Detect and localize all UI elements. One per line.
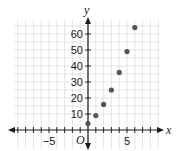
y-axis-label: y [83, 3, 90, 17]
y-tick-label: 50 [71, 44, 83, 56]
y-tick-label: 10 [71, 108, 83, 120]
y-tick-label: 30 [71, 76, 83, 88]
x-tick-label: −5 [43, 135, 56, 147]
scatter-chart: −55102030405060 x y O [0, 0, 179, 151]
ticks [18, 34, 151, 133]
y-tick-label: 40 [71, 60, 83, 72]
y-axis-down-arrow [85, 143, 91, 150]
data-point [117, 70, 122, 75]
axes [8, 17, 164, 150]
data-point [93, 113, 98, 118]
x-axis-label: x [165, 123, 172, 137]
data-point [85, 121, 90, 126]
data-point [101, 102, 106, 107]
y-tick-label: 20 [71, 92, 83, 104]
x-axis-right-arrow [157, 127, 164, 133]
origin-label: O [76, 133, 85, 147]
data-point [124, 49, 129, 54]
y-axis-up-arrow [85, 17, 91, 24]
data-point [132, 25, 137, 30]
y-tick-label: 60 [71, 28, 83, 40]
x-axis-left-arrow [8, 127, 15, 133]
tick-labels: −55102030405060 [43, 28, 130, 147]
x-tick-label: 5 [124, 135, 130, 147]
data-point [109, 87, 114, 92]
